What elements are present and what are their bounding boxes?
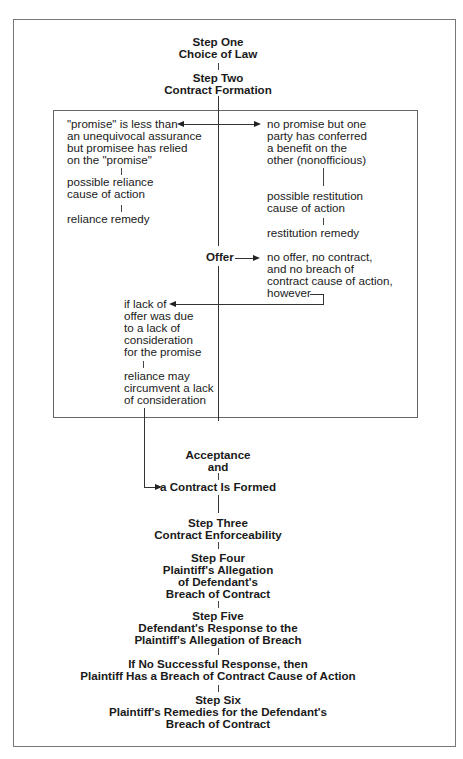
offer-arrow-line	[235, 258, 253, 259]
arrow-right-icon	[254, 121, 261, 127]
restitution-branch: no promise but one party has conferred a…	[267, 118, 367, 166]
contract-formed: a Contract Is Formed	[158, 481, 278, 493]
reliance-circumvent: reliance may circumvent a lack of consid…	[124, 370, 214, 406]
step-six: Step Six Plaintiff's Remedies for the De…	[98, 694, 338, 730]
text-line: Breach of Contract	[148, 588, 288, 600]
step-four: Step Four Plaintiff's Allegation of Defe…	[148, 552, 288, 600]
step-two-subtitle: Contract Formation	[158, 84, 278, 96]
offer-label: Offer	[206, 251, 234, 263]
connector	[218, 601, 219, 608]
text-line: other (nonofficious)	[267, 154, 367, 166]
step-two: Step Two Contract Formation	[158, 72, 278, 96]
arrow-right-icon	[253, 255, 260, 261]
no-offer-text: no offer, no contract, and no breach of …	[267, 251, 393, 299]
connector	[218, 63, 219, 70]
text-line: Plaintiff's Allegation of Breach	[118, 634, 318, 646]
however-connector	[310, 294, 324, 295]
restitution-remedy: restitution remedy	[267, 227, 359, 239]
connector	[323, 218, 324, 225]
step-three: Step Three Contract Enforceability	[148, 517, 288, 541]
consideration-text: if lack of offer was due to a lack of co…	[124, 298, 201, 358]
connector	[121, 205, 122, 212]
step-three-subtitle: Contract Enforceability	[148, 529, 288, 541]
step-five: Step Five Defendant's Response to the Pl…	[118, 610, 318, 646]
connector	[121, 168, 122, 175]
text-line: Plaintiff Has a Breach of Contract Cause…	[68, 670, 368, 682]
connector	[218, 542, 219, 549]
step-one-subtitle: Choice of Law	[168, 48, 268, 60]
no-successful-response: If No Successful Response, then Plaintif…	[68, 658, 368, 682]
acceptance: Acceptance and	[168, 449, 268, 473]
text-line: of consideration	[124, 394, 214, 406]
text-line: and	[168, 461, 268, 473]
reliance-cause: possible reliance cause of action	[67, 176, 153, 200]
main-flow-line	[218, 96, 219, 246]
main-flow-line-lower	[218, 266, 219, 421]
connector	[218, 473, 219, 480]
text-line: cause of action	[67, 188, 153, 200]
text-line: cause of action	[267, 202, 363, 214]
text-line: however	[267, 287, 393, 299]
connector	[218, 495, 219, 513]
connector	[218, 685, 219, 692]
connector	[323, 168, 324, 186]
reliance-branch: "promise" is less than an unequivocal as…	[67, 118, 202, 166]
text-line: for the promise	[124, 346, 201, 358]
connector	[218, 648, 219, 655]
connector	[143, 361, 144, 368]
step-one: Step One Choice of Law	[168, 36, 268, 60]
restitution-cause: possible restitution cause of action	[267, 190, 363, 214]
reliance-bypass-line	[144, 408, 145, 487]
text-line: Breach of Contract	[98, 718, 338, 730]
text-line: on the "promise"	[67, 154, 202, 166]
reliance-remedy: reliance remedy	[67, 213, 149, 225]
